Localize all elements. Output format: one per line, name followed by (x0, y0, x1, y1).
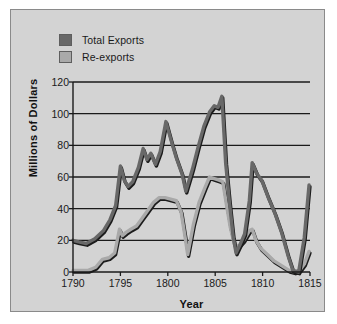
y-tick-label: 100 (37, 108, 69, 120)
legend-label-total-exports: Total Exports (82, 34, 144, 46)
data-series-layer (73, 96, 310, 273)
x-tick-label: 1810 (241, 277, 285, 289)
legend-swatch-total-exports (59, 34, 72, 46)
x-tick-label: 1805 (193, 277, 237, 289)
chart-figure-frame: Total Exports Re-exports 020406080100120… (10, 9, 325, 312)
chart-legend: Total Exports Re-exports (59, 31, 199, 65)
x-tick-label: 1795 (98, 277, 142, 289)
x-tick-label: 1800 (146, 277, 190, 289)
y-axis-title: Millions of Dollars (27, 58, 39, 198)
y-tick-label: 20 (37, 234, 69, 246)
plot-area (73, 82, 310, 272)
y-tick-label: 80 (37, 139, 69, 151)
x-tick-label: 1790 (51, 277, 95, 289)
y-tick-label: 120 (37, 76, 69, 88)
legend-label-re-exports: Re-exports (82, 51, 134, 63)
legend-item-re-exports: Re-exports (59, 48, 199, 65)
y-tick-label: 60 (37, 171, 69, 183)
y-tick-label: 40 (37, 203, 69, 215)
chart-plot-svg (73, 82, 310, 272)
x-axis-title: Year (73, 298, 310, 310)
x-axis-tick-labels: 179017951800180518101815 (73, 277, 310, 293)
legend-swatch-re-exports (59, 51, 72, 63)
legend-item-total-exports: Total Exports (59, 31, 199, 48)
x-tick-label: 1815 (288, 277, 332, 289)
